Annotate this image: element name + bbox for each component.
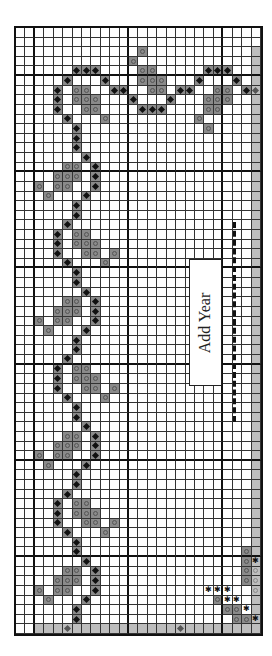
grid-cell xyxy=(195,192,204,202)
ring-symbol-icon xyxy=(74,443,79,448)
diamond-symbol-icon xyxy=(64,259,71,266)
grid-cell xyxy=(167,211,176,221)
grid-cell xyxy=(54,470,63,480)
grid-cell xyxy=(54,605,63,615)
diamond-symbol-icon xyxy=(92,173,99,180)
grid-cell xyxy=(186,211,195,221)
diamond-symbol-icon xyxy=(73,135,80,142)
grid-cell xyxy=(186,432,195,442)
grid-cell xyxy=(16,278,25,288)
grid-cell xyxy=(44,538,53,548)
grid-cell xyxy=(223,278,232,288)
grid-cell xyxy=(44,172,53,182)
grid-cell xyxy=(129,134,138,144)
grid-cell xyxy=(120,403,129,413)
grid-cell xyxy=(101,230,110,240)
grid-cell xyxy=(129,567,138,577)
grid-cell xyxy=(120,105,129,115)
grid-cell xyxy=(16,38,25,48)
grid-cell xyxy=(73,490,82,500)
grid-cell xyxy=(242,336,251,346)
grid-cell xyxy=(63,326,72,336)
grid-cell xyxy=(176,394,185,404)
ring-symbol-icon xyxy=(55,578,60,583)
diamond-symbol-icon xyxy=(83,154,90,161)
grid-cell xyxy=(148,240,157,250)
grid-cell xyxy=(35,557,44,567)
grid-cell xyxy=(157,249,166,259)
grid-cell xyxy=(138,384,147,394)
grid-cell xyxy=(63,115,72,125)
grid-cell xyxy=(167,547,176,557)
grid-cell xyxy=(120,124,129,134)
grid-cell xyxy=(195,615,204,625)
grid-cell xyxy=(91,576,100,586)
grid-cell xyxy=(110,278,119,288)
grid-cell xyxy=(101,326,110,336)
grid-cell xyxy=(91,519,100,529)
grid-cell xyxy=(110,605,119,615)
grid-cell xyxy=(129,317,138,327)
grid-cell xyxy=(82,201,91,211)
grid-cell xyxy=(35,451,44,461)
grid-cell xyxy=(25,192,34,202)
grid-cell xyxy=(101,86,110,96)
grid-cell xyxy=(63,451,72,461)
grid-cell xyxy=(73,365,82,375)
grid-cell xyxy=(242,461,251,471)
grid-cell xyxy=(73,403,82,413)
grid-cell xyxy=(63,586,72,596)
grid-cell xyxy=(54,220,63,230)
grid-cell xyxy=(138,557,147,567)
grid-cell xyxy=(223,519,232,529)
grid-cell xyxy=(35,461,44,471)
grid-cell xyxy=(252,115,261,125)
grid-cell xyxy=(110,413,119,423)
ring-symbol-icon xyxy=(74,578,79,583)
grid-cell xyxy=(138,201,147,211)
grid-cell xyxy=(54,624,63,634)
diamond-symbol-icon xyxy=(54,519,61,526)
grid-cell xyxy=(35,153,44,163)
grid-cell xyxy=(195,394,204,404)
grid-cell xyxy=(35,394,44,404)
grid-cell xyxy=(63,432,72,442)
grid-cell xyxy=(242,615,251,625)
diamond-symbol-icon xyxy=(92,308,99,315)
add-year-label-box[interactable]: Add Year xyxy=(189,259,222,386)
ring-symbol-icon xyxy=(84,251,89,256)
grid-cell xyxy=(252,249,261,259)
grid-cell xyxy=(148,490,157,500)
ring-symbol-icon xyxy=(65,164,70,169)
diamond-symbol-icon xyxy=(73,202,80,209)
grid-cell xyxy=(195,86,204,96)
diamond-symbol-icon xyxy=(73,548,80,555)
grid-cell xyxy=(214,240,223,250)
grid-cell xyxy=(82,394,91,404)
grid-cell xyxy=(214,143,223,153)
grid-cell xyxy=(233,557,242,567)
grid-cell xyxy=(44,66,53,76)
grid-cell xyxy=(120,567,129,577)
grid-cell xyxy=(195,586,204,596)
grid-cell xyxy=(63,211,72,221)
grid-cell xyxy=(82,586,91,596)
grid-cell xyxy=(82,528,91,538)
grid-cell xyxy=(73,143,82,153)
grid-cell xyxy=(157,115,166,125)
grid-cell xyxy=(223,480,232,490)
grid-cell xyxy=(195,143,204,153)
grid-cell xyxy=(16,124,25,134)
grid-cell xyxy=(186,461,195,471)
grid-cell xyxy=(25,365,34,375)
ring-symbol-icon xyxy=(55,588,60,593)
grid-cell xyxy=(214,66,223,76)
grid-cell xyxy=(16,182,25,192)
grid-cell xyxy=(242,499,251,509)
grid-cell xyxy=(233,490,242,500)
grid-cell xyxy=(167,509,176,519)
grid-cell xyxy=(35,615,44,625)
grid-cell xyxy=(176,480,185,490)
grid-cell xyxy=(35,95,44,105)
grid-cell xyxy=(138,317,147,327)
